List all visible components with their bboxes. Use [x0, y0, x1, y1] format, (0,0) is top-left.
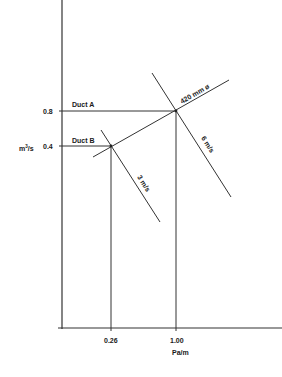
y-tick-label-0.4: 0.4	[43, 143, 53, 150]
y-axis-label: m3/s	[19, 144, 34, 152]
x-tick-label-0.26: 0.26	[104, 337, 118, 344]
y-tick-label-0.8: 0.8	[43, 108, 53, 115]
velocity-3-line	[101, 130, 160, 222]
duct-a-label: Duct A	[72, 101, 94, 108]
diameter-label: 420 mm ø	[179, 82, 211, 105]
velocity-6-label: 6 m/s	[200, 135, 215, 154]
x-axis-label: Pa/m	[172, 349, 189, 356]
duct-b-point	[110, 145, 113, 148]
velocity-3-label: 3 m/s	[136, 174, 151, 193]
duct-sizing-chart: 0.8 0.4 m3/s Duct A Duct B 420 mm ø 6 m/…	[0, 0, 282, 377]
duct-a-point	[175, 110, 178, 113]
duct-b-label: Duct B	[72, 137, 95, 144]
x-tick-label-1.00: 1.00	[170, 337, 184, 344]
